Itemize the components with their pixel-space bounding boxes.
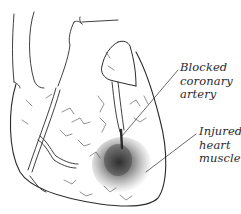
great-vessels — [13, 12, 119, 88]
label-injured-heart-muscle: Injured heart muscle — [199, 125, 241, 166]
heart-illustration — [0, 0, 241, 214]
heart-diagram: Blocked coronary artery Injured heart mu… — [0, 0, 241, 214]
label-blocked-coronary-artery: Blocked coronary artery — [180, 61, 233, 102]
label-line: artery — [180, 88, 233, 102]
left-atrium — [101, 41, 136, 86]
label-line: muscle — [199, 152, 241, 166]
label-line: heart — [199, 139, 241, 153]
right-coronary-artery — [28, 88, 78, 192]
label-line: coronary — [180, 75, 233, 89]
label-line: Blocked — [180, 61, 233, 75]
label-line: Injured — [199, 125, 241, 139]
leader-line-blocked-artery — [122, 70, 178, 136]
leader-line-injured-muscle — [146, 134, 196, 172]
